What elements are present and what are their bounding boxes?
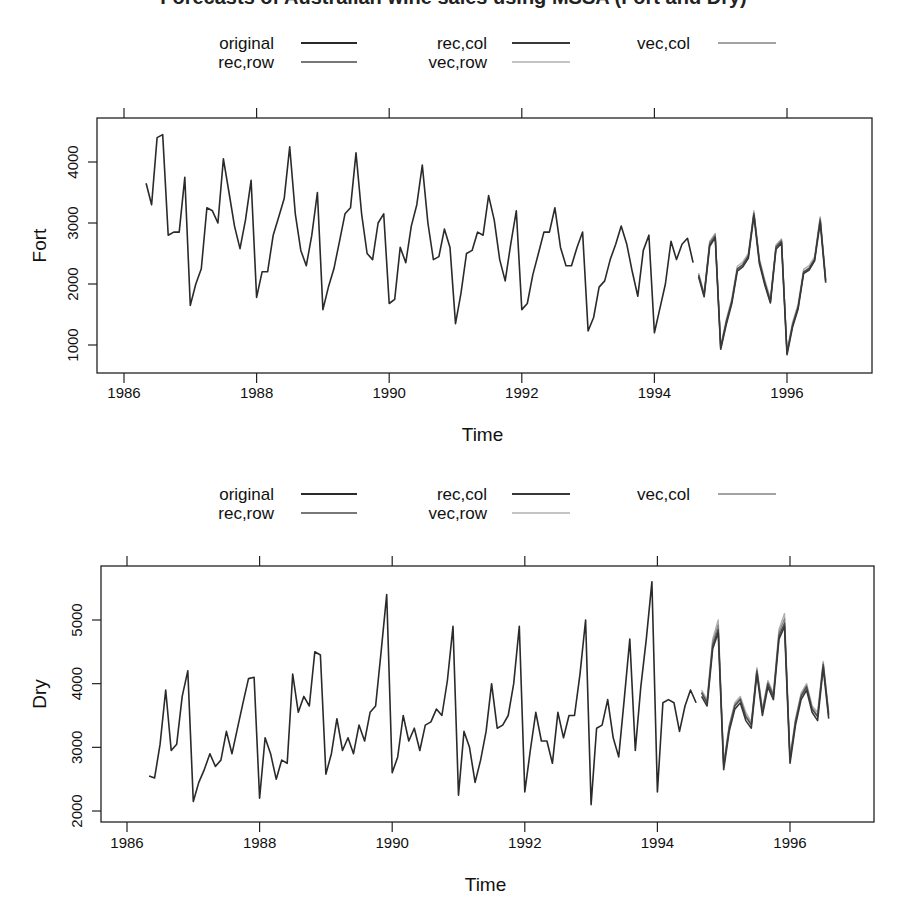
x-tick-label: 1992 (508, 834, 541, 851)
series-original (146, 135, 693, 333)
legend-entry-vec-col: vec,col (637, 485, 776, 504)
legend: originalrec,rowrec,colvec,rowvec,col (218, 485, 776, 523)
legend-entry-rec-col: rec,col (437, 485, 570, 504)
x-axis: 198619881990199219941996Time (110, 556, 806, 895)
x-tick-label: 1994 (638, 384, 671, 401)
x-tick-label: 1994 (641, 834, 674, 851)
legend: originalrec,rowrec,colvec,rowvec,col (218, 34, 776, 72)
legend-label: vec,col (637, 34, 690, 53)
legend-entry-original: original (219, 485, 357, 504)
x-axis-title: Time (462, 424, 504, 445)
x-tick-label: 1996 (773, 834, 806, 851)
y-tick-label: 1000 (64, 328, 81, 361)
series-original (149, 582, 696, 805)
x-tick-label: 1992 (505, 384, 538, 401)
legend-label: vec,row (428, 504, 487, 523)
x-tick-label: 1988 (240, 384, 273, 401)
legend-entry-rec-row: rec,row (218, 53, 357, 72)
legend-label: original (219, 485, 274, 504)
x-tick-label: 1988 (243, 834, 276, 851)
legend-label: rec,col (437, 34, 487, 53)
dry-chart: originalrec,rowrec,colvec,rowvec,col1986… (29, 485, 874, 895)
y-tick-label: 5000 (68, 603, 85, 636)
legend-label: rec,col (437, 485, 487, 504)
plot-frame (97, 118, 872, 373)
figure-canvas: originalrec,rowrec,colvec,rowvec,col1986… (0, 0, 907, 913)
legend-entry-original: original (219, 34, 357, 53)
x-tick-label: 1990 (373, 384, 406, 401)
y-tick-label: 4000 (64, 145, 81, 178)
legend-label: original (219, 34, 274, 53)
y-axis-title: Fort (29, 228, 50, 263)
plot-frame (101, 566, 874, 822)
x-tick-label: 1986 (107, 384, 140, 401)
x-tick-label: 1996 (770, 384, 803, 401)
legend-entry-vec-col: vec,col (637, 34, 776, 53)
y-tick-label: 2000 (68, 794, 85, 827)
legend-label: rec,row (218, 53, 274, 72)
x-tick-label: 1986 (110, 834, 143, 851)
legend-label: rec,row (218, 504, 274, 523)
legend-entry-vec-row: vec,row (428, 53, 570, 72)
x-tick-label: 1990 (376, 834, 409, 851)
x-axis-title: Time (465, 874, 507, 895)
y-tick-label: 3000 (68, 731, 85, 764)
series-group (146, 135, 826, 355)
y-tick-label: 2000 (64, 267, 81, 300)
legend-entry-rec-row: rec,row (218, 504, 357, 523)
y-tick-label: 4000 (68, 667, 85, 700)
legend-entry-vec-row: vec,row (428, 504, 570, 523)
series-rec-col (699, 216, 826, 355)
legend-entry-rec-col: rec,col (437, 34, 570, 53)
y-axis: 1000200030004000Fort (29, 145, 97, 361)
series-group (149, 582, 829, 805)
y-axis-title: Dry (29, 679, 50, 709)
fort-chart: originalrec,rowrec,colvec,rowvec,col1986… (29, 34, 872, 445)
y-tick-label: 3000 (64, 206, 81, 239)
legend-label: vec,row (428, 53, 487, 72)
legend-label: vec,col (637, 485, 690, 504)
y-axis: 2000300040005000Dry (29, 603, 101, 827)
